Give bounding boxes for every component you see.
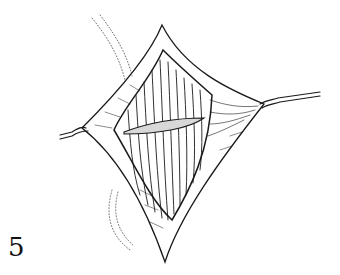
skin-fold-left-2 <box>100 15 132 76</box>
retractor-right-2 <box>262 96 320 108</box>
retractor-left-2 <box>60 131 88 139</box>
fascia-lines <box>208 100 258 136</box>
retractor-right <box>260 92 320 104</box>
surgical-illustration <box>0 0 340 275</box>
figure-number: 5 <box>8 234 25 260</box>
muscle-incision <box>124 118 204 134</box>
skin-fold-lower-2 <box>116 192 134 246</box>
skin-margin-hatching <box>95 85 242 228</box>
muscle-fibers <box>128 60 202 220</box>
skin-fold-left <box>92 18 125 80</box>
skin-fold-lower <box>109 190 130 250</box>
